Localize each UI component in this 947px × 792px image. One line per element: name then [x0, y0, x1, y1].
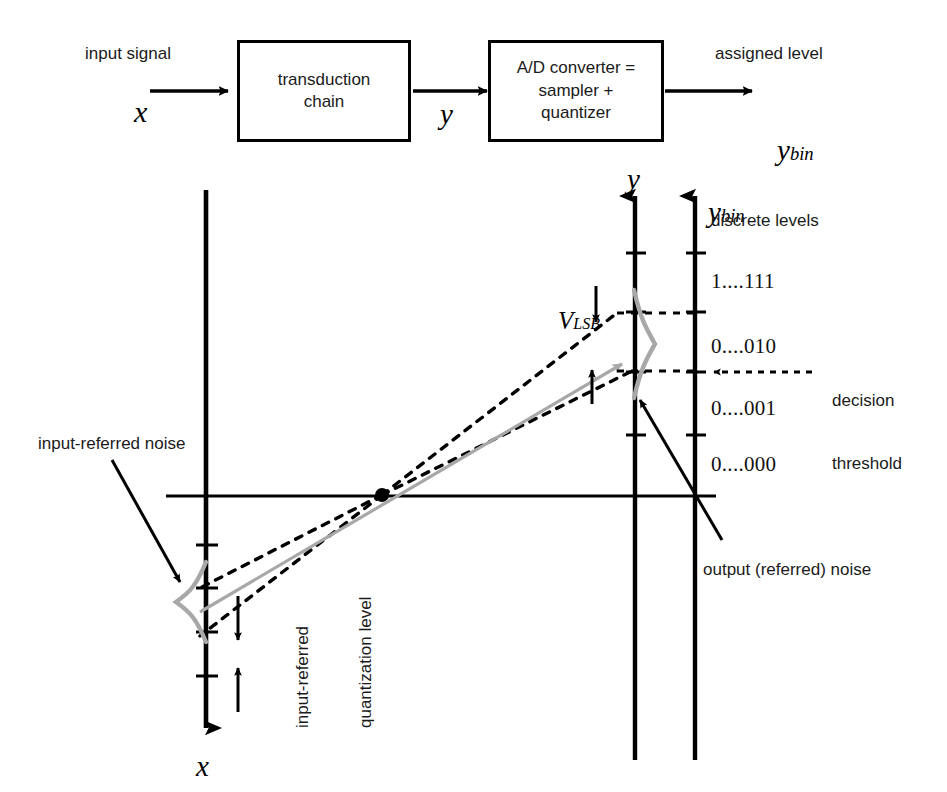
output-symbol-ybin-sub: bin	[790, 143, 814, 164]
decision-threshold-line1: decision	[832, 391, 902, 412]
output-symbol-ybin-base: y	[777, 134, 790, 166]
quantization-level-guides	[617, 313, 700, 371]
x-axis-label: x	[196, 750, 209, 783]
decision-threshold-label: decision threshold	[832, 350, 902, 516]
vlsb-label-base: V	[558, 307, 573, 334]
input-signal-label: input signal	[85, 44, 171, 65]
dashed-cone-left-upper-line	[200, 495, 382, 588]
discrete-level-code-3: 0....001	[711, 396, 776, 421]
vlsb-label-sub: LSB	[573, 315, 600, 332]
discrete-level-code-1: 1....111	[711, 269, 775, 294]
ideal-transfer-gray-arrow	[200, 364, 622, 612]
input-noise-gaussian-curve	[176, 562, 206, 642]
input-noise-leader-arrow	[112, 460, 180, 582]
adc-block: A/D converter = sampler + quantizer	[488, 40, 664, 142]
discrete-levels-label: discrete levels	[711, 211, 819, 232]
discrete-level-code-2: 0....010	[711, 334, 776, 359]
discrete-level-code-4: 0....000	[711, 452, 776, 477]
input-referred-quantization-level-line2: quantization level	[356, 597, 377, 728]
figure-canvas: input signal x transduction chain y A/D …	[0, 0, 947, 792]
mid-symbol-y: y	[440, 98, 453, 131]
output-referred-noise-label: output (referred) noise	[703, 560, 871, 581]
input-symbol-x: x	[134, 95, 147, 129]
vlsb-label: VLSB	[533, 279, 600, 363]
transduction-chain-block: transduction chain	[237, 40, 411, 142]
input-referred-noise-label: input-referred noise	[38, 434, 185, 455]
main-axes	[166, 190, 716, 760]
output-symbol-ybin: ybin	[748, 101, 814, 200]
decision-threshold-line2: threshold	[832, 454, 902, 475]
input-referred-quantization-level-line1: input-referred	[293, 597, 314, 728]
assigned-level-label: assigned level	[715, 44, 823, 65]
input-referred-quantization-level-label: input-referred quantization level	[252, 597, 418, 728]
output-noise-leader-arrow	[640, 400, 722, 540]
y-axis-label: y	[627, 163, 640, 196]
